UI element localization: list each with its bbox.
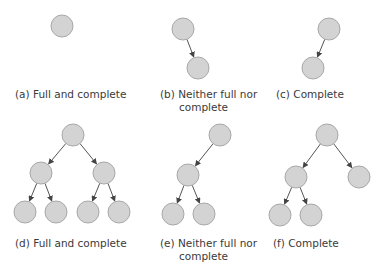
tree-node xyxy=(45,201,67,223)
panel-b-caption: (b) Neither full nor complete xyxy=(160,88,257,114)
panel-a-caption: (a) Full and complete xyxy=(15,88,126,101)
tree-node xyxy=(318,18,340,40)
tree-node xyxy=(108,201,130,223)
tree-edge-arrow xyxy=(300,187,307,204)
caption-line1: (c) Complete xyxy=(276,88,344,101)
tree-node xyxy=(285,166,307,188)
caption-line2: complete xyxy=(160,101,257,114)
tree-node xyxy=(302,57,324,79)
tree-node xyxy=(93,162,115,184)
tree-node xyxy=(209,124,231,146)
tree-edge-arrow xyxy=(80,144,96,164)
caption-line1: (e) Neither full nor xyxy=(160,237,257,250)
panel-c-caption: (c) Complete xyxy=(276,88,344,101)
tree-edge-arrow xyxy=(195,144,213,166)
tree-node xyxy=(187,57,209,79)
caption-line2: complete xyxy=(160,250,257,263)
panel-d-caption: (d) Full and complete xyxy=(15,237,127,250)
panel-e-caption: (e) Neither full nor complete xyxy=(160,237,257,263)
tree-node xyxy=(300,204,322,226)
tree-edge-arrow xyxy=(303,144,320,167)
tree-node xyxy=(348,166,370,188)
tree-edge-arrow xyxy=(192,185,199,203)
nodes-layer xyxy=(14,15,370,226)
tree-edge-arrow xyxy=(108,183,115,201)
tree-node xyxy=(62,124,84,146)
tree-node xyxy=(30,162,52,184)
caption-line1: (f) Complete xyxy=(273,237,339,250)
panel-f-caption: (f) Complete xyxy=(273,237,339,250)
tree-edge-arrow xyxy=(177,185,184,203)
tree-edge-arrow xyxy=(187,39,194,57)
tree-node xyxy=(177,164,199,186)
tree-node xyxy=(316,124,338,146)
tree-node xyxy=(193,203,215,225)
tree-edge-arrow xyxy=(334,144,352,168)
tree-edge-arrow xyxy=(93,183,100,201)
tree-node xyxy=(14,201,36,223)
tree-edge-arrow xyxy=(318,39,325,57)
tree-node xyxy=(162,203,184,225)
binary-tree-diagram xyxy=(0,0,380,270)
tree-edge-arrow xyxy=(30,183,37,201)
caption-line1: (b) Neither full nor xyxy=(160,88,257,101)
tree-node xyxy=(51,15,73,37)
tree-edge-arrow xyxy=(49,143,66,163)
tree-node xyxy=(172,18,194,40)
tree-edge-arrow xyxy=(45,183,52,201)
caption-line1: (a) Full and complete xyxy=(15,88,126,101)
tree-node xyxy=(77,201,99,223)
caption-line1: (d) Full and complete xyxy=(15,237,127,250)
tree-edge-arrow xyxy=(285,187,292,204)
tree-node xyxy=(269,204,291,226)
